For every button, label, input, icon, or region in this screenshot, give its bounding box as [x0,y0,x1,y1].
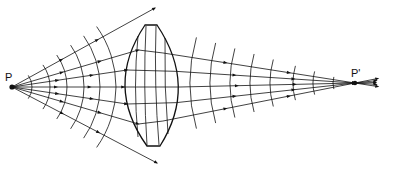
image-point-p-prime [353,81,357,85]
image-label: P' [351,68,360,79]
source-label: P [5,72,12,83]
source-point-p [9,84,14,89]
ray-diagram-canvas [0,0,396,171]
lens-wavefront-diagram: P P' [0,0,396,171]
lens [125,25,178,146]
